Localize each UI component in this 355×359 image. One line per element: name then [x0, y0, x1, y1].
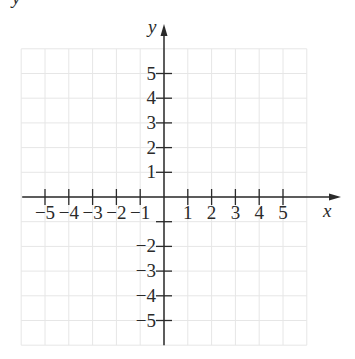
- y-tick-label: 4: [147, 87, 157, 108]
- x-tick-label: 2: [207, 202, 217, 223]
- y-tick-label: −5: [136, 310, 156, 331]
- y-axis-label: y: [146, 16, 157, 37]
- y-tick-label: 1: [147, 161, 157, 182]
- axes: [22, 24, 341, 345]
- y-tick-label: 2: [147, 137, 157, 158]
- x-tick-label: −2: [106, 202, 126, 223]
- y-tick-label: 5: [147, 63, 157, 84]
- x-tick-label: 5: [278, 202, 288, 223]
- x-tick-label: 4: [254, 202, 264, 223]
- x-tick-label: −1: [130, 202, 150, 223]
- coordinate-plane: −5−4−3−2−112345 54321−2−3−4−5 y x y: [0, 0, 355, 359]
- x-tick-label: −4: [59, 202, 80, 223]
- y-tick-label: −4: [136, 285, 157, 306]
- y-tick-label: 3: [147, 112, 157, 133]
- y-tick-label: −3: [136, 260, 156, 281]
- x-tick-label: −5: [35, 202, 55, 223]
- y-axis-arrow-icon: [161, 24, 168, 36]
- x-axis-label: x: [322, 200, 332, 221]
- y-tick-label: −2: [136, 235, 156, 256]
- x-tick-label: 3: [231, 202, 241, 223]
- x-tick-labels: −5−4−3−2−112345: [35, 202, 288, 223]
- x-tick-label: −3: [82, 202, 102, 223]
- x-tick-label: 1: [183, 202, 193, 223]
- corner-fragment-text: y: [10, 0, 21, 8]
